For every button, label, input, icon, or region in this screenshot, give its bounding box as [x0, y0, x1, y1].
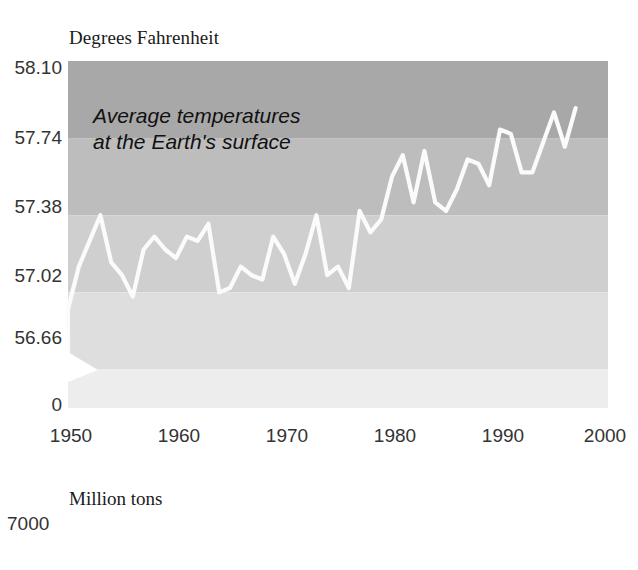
chart1-y-tick-label: 57.38	[0, 196, 62, 218]
chart2-y-tick-7000: 7000	[7, 513, 49, 535]
emissions-chart-partial: Million tons 7000	[0, 470, 638, 570]
figure-root: Degrees Fahrenheit Average temperatures …	[0, 0, 638, 570]
chart1-plot-area: Average temperatures at the Earth's surf…	[68, 61, 608, 408]
chart1-x-tick-label: 1970	[266, 425, 308, 447]
chart1-y-tick-label: 57.74	[0, 127, 62, 149]
chart1-x-tick-label: 2000	[584, 425, 626, 447]
chart1-x-tick-label: 1960	[158, 425, 200, 447]
chart1-x-tick-label: 1980	[374, 425, 416, 447]
chart2-axis-title: Million tons	[69, 488, 162, 510]
chart1-y-tick-label: 0	[0, 394, 62, 416]
background-band	[68, 292, 608, 369]
chart1-annotation-line2: at the Earth's surface	[93, 129, 300, 155]
chart1-y-tick-label: 58.10	[0, 57, 62, 79]
temperature-chart: Degrees Fahrenheit Average temperatures …	[0, 0, 638, 470]
chart1-axis-title: Degrees Fahrenheit	[69, 27, 219, 49]
chart1-annotation-line1: Average temperatures	[93, 103, 300, 129]
chart1-x-tick-label: 1950	[50, 425, 92, 447]
chart1-y-tick-label: 56.66	[0, 327, 62, 349]
chart1-x-tick-label: 1990	[482, 425, 524, 447]
chart1-annotation: Average temperatures at the Earth's surf…	[93, 103, 300, 155]
background-band	[68, 215, 608, 292]
chart1-y-tick-label: 57.02	[0, 265, 62, 287]
background-band	[68, 369, 608, 408]
